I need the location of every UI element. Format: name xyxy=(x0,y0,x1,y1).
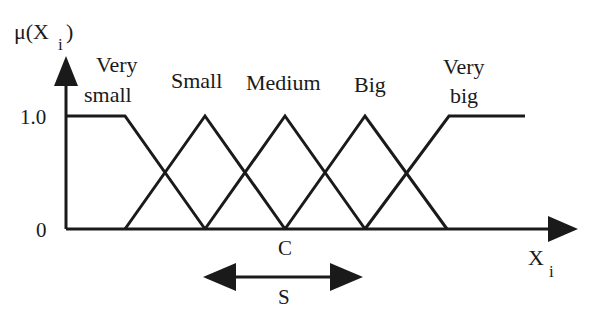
x-axis-arrow-icon xyxy=(548,216,578,242)
label-very-big-2: big xyxy=(450,83,478,108)
mf-small xyxy=(125,116,285,229)
mf-very-big xyxy=(365,116,525,229)
fuzzy-diagram: μ(X i ) 1.0 0 Very small Small Medium Bi… xyxy=(0,0,597,326)
y-axis-arrow-icon xyxy=(54,56,78,86)
tick-1: 1.0 xyxy=(20,105,46,129)
mf-medium xyxy=(205,116,365,229)
spread-label: S xyxy=(278,285,290,309)
label-small: Small xyxy=(171,68,222,93)
tick-0: 0 xyxy=(36,218,47,242)
label-very-small-1: Very xyxy=(96,52,138,77)
y-axis-label-close: ) xyxy=(66,19,73,44)
label-very-small-2: small xyxy=(84,82,132,107)
mf-big xyxy=(285,116,447,229)
label-very-big-1: Very xyxy=(443,54,485,79)
spread-left-arrow-icon xyxy=(203,263,236,291)
label-medium: Medium xyxy=(246,70,321,95)
x-axis-label-sub: i xyxy=(549,262,554,281)
label-big: Big xyxy=(354,72,386,97)
spread-right-arrow-icon xyxy=(330,263,363,291)
center-label: C xyxy=(278,236,292,260)
x-axis-label: X xyxy=(528,245,544,270)
y-axis-label: μ(X xyxy=(14,19,49,44)
y-axis-label-sub: i xyxy=(58,35,63,54)
